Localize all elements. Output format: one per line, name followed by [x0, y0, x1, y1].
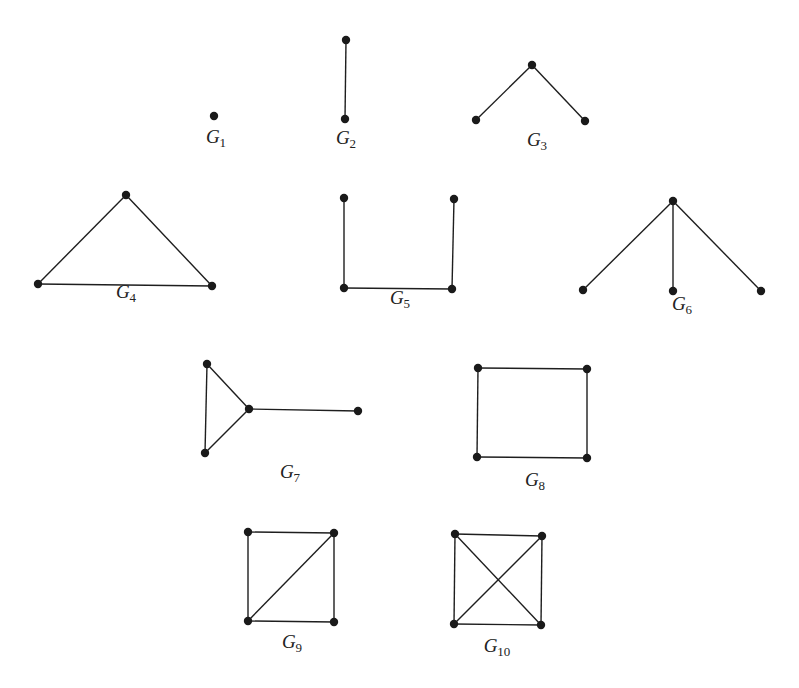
graph-vertex	[448, 285, 456, 293]
graph-label-g7: G7	[280, 461, 300, 486]
graph-vertex	[528, 61, 536, 69]
graph-vertex	[203, 360, 211, 368]
graph-g8	[473, 364, 591, 462]
graph-edge	[454, 624, 541, 625]
label-letter: G	[525, 469, 539, 490]
graph-edge	[248, 532, 334, 533]
graph-vertex	[330, 618, 338, 626]
graph-edge	[478, 368, 587, 369]
graph-vertex	[201, 449, 209, 457]
graph-g3	[472, 61, 589, 125]
label-subscript: 1	[220, 135, 227, 150]
label-letter: G	[116, 281, 130, 302]
label-subscript: 4	[130, 290, 137, 305]
graph-g5	[340, 194, 458, 293]
label-letter: G	[206, 126, 220, 147]
graph-edge	[249, 409, 358, 411]
graph-vertex	[472, 116, 480, 124]
graph-label-g9: G9	[282, 631, 302, 656]
graph-edge	[248, 621, 334, 622]
graph-vertex	[450, 620, 458, 628]
graph-edge	[126, 195, 212, 286]
graph-drawings	[0, 0, 799, 688]
graph-vertex	[342, 36, 350, 44]
graph-vertex	[474, 364, 482, 372]
graph-edge	[205, 364, 207, 453]
graph-g1	[210, 112, 218, 120]
graph-label-g5: G5	[390, 287, 410, 312]
label-subscript: 2	[350, 136, 357, 151]
graph-edge	[207, 364, 249, 409]
graph-vertex	[473, 453, 481, 461]
label-letter: G	[672, 293, 686, 314]
graph-vertex	[244, 617, 252, 625]
graph-edge	[583, 201, 673, 290]
graph-g10	[450, 530, 546, 629]
graph-vertex	[757, 287, 765, 295]
graph-vertex	[34, 280, 42, 288]
graph-vertex	[537, 621, 545, 629]
graph-edge	[38, 195, 126, 284]
label-subscript: 5	[404, 296, 411, 311]
label-subscript: 6	[686, 302, 693, 317]
graph-vertex	[340, 194, 348, 202]
label-letter: G	[336, 127, 350, 148]
graph-g2	[341, 36, 350, 123]
graph-vertex	[341, 115, 349, 123]
graph-edge	[345, 40, 346, 119]
graph-edge	[205, 409, 249, 453]
graph-edge	[476, 65, 532, 120]
graph-vertex	[583, 365, 591, 373]
graph-vertex	[669, 197, 677, 205]
label-letter: G	[280, 461, 294, 482]
graph-label-g3: G3	[527, 129, 547, 154]
graph-edge	[248, 533, 334, 621]
graph-edge	[673, 201, 761, 291]
graph-g7	[201, 360, 362, 457]
graph-label-g6: G6	[672, 293, 692, 318]
graph-g9	[244, 528, 338, 626]
graph-g6	[579, 197, 765, 295]
label-subscript: 10	[497, 644, 510, 659]
graph-edge	[477, 457, 587, 458]
graph-vertex	[244, 528, 252, 536]
graph-vertex	[583, 454, 591, 462]
graph-vertex	[538, 532, 546, 540]
graph-vertex	[354, 407, 362, 415]
graph-vertex	[581, 117, 589, 125]
graph-edge	[454, 536, 542, 624]
graph-g4	[34, 191, 216, 290]
graph-vertex	[451, 530, 459, 538]
graph-edge	[532, 65, 585, 121]
graph-label-g4: G4	[116, 281, 136, 306]
graph-vertex	[330, 529, 338, 537]
graph-vertex	[579, 286, 587, 294]
graph-edge	[455, 534, 542, 536]
graph-label-g1: G1	[206, 126, 226, 151]
graph-figure: G1G2G3G4G5G6G7G8G9G10	[0, 0, 799, 688]
label-letter: G	[484, 635, 498, 656]
graph-vertex	[340, 284, 348, 292]
label-subscript: 3	[541, 138, 548, 153]
label-subscript: 8	[539, 478, 546, 493]
graph-edge	[477, 368, 478, 457]
graph-vertex	[245, 405, 253, 413]
graph-edge	[454, 534, 455, 624]
graph-vertex	[208, 282, 216, 290]
label-letter: G	[390, 287, 404, 308]
graph-edge	[452, 199, 454, 289]
label-subscript: 7	[294, 470, 301, 485]
graph-label-g8: G8	[525, 469, 545, 494]
graph-vertex	[450, 195, 458, 203]
graph-label-g2: G2	[336, 127, 356, 152]
graph-vertex	[210, 112, 218, 120]
graph-vertex	[122, 191, 130, 199]
label-letter: G	[527, 129, 541, 150]
graph-edge	[541, 536, 542, 625]
label-subscript: 9	[296, 640, 303, 655]
label-letter: G	[282, 631, 296, 652]
graph-label-g10: G10	[484, 635, 511, 660]
